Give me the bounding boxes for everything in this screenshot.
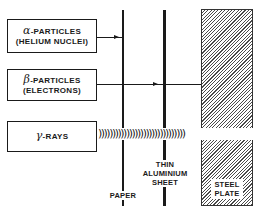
beta-particles-box: β-PARTICLES (ELECTRONS) (7, 69, 97, 101)
gamma-wave-path: ))))))))))))))))))))))))))))))) (98, 128, 270, 140)
steel-plate-barrier (201, 9, 253, 206)
aluminium-label-line-3: SHEET (140, 178, 190, 187)
beta-label: -PARTICLES (30, 76, 80, 85)
alpha-particles-box: α-PARTICLES (HELIUM NUCLEI) (7, 19, 97, 53)
gamma-rays-box: γ-RAYS (7, 121, 97, 152)
gamma-symbol: γ (36, 129, 43, 142)
aluminium-label: THIN ALUMINIUM SHEET (140, 160, 190, 187)
beta-arrowhead-icon (153, 82, 158, 86)
alpha-arrowhead-icon (114, 35, 119, 39)
gamma-label: -RAYS (43, 132, 69, 141)
beta-subtitle: (ELECTRONS) (23, 86, 81, 96)
alpha-label: -PARTICLES (31, 27, 81, 36)
alpha-symbol: α (23, 24, 31, 37)
steel-label-line-2: PLATE (211, 189, 243, 198)
steel-label-line-1: STEEL (211, 180, 243, 189)
alpha-subtitle: (HELIUM NUCLEI) (16, 37, 89, 47)
steel-label: STEEL PLATE (211, 179, 243, 199)
paper-barrier (122, 10, 124, 206)
aluminium-label-line-2: ALUMINIUM (140, 169, 190, 178)
paper-label: PAPER (109, 191, 137, 200)
alpha-path-line (97, 37, 123, 39)
aluminium-label-line-1: THIN (140, 160, 190, 169)
beta-path-line (97, 84, 201, 86)
